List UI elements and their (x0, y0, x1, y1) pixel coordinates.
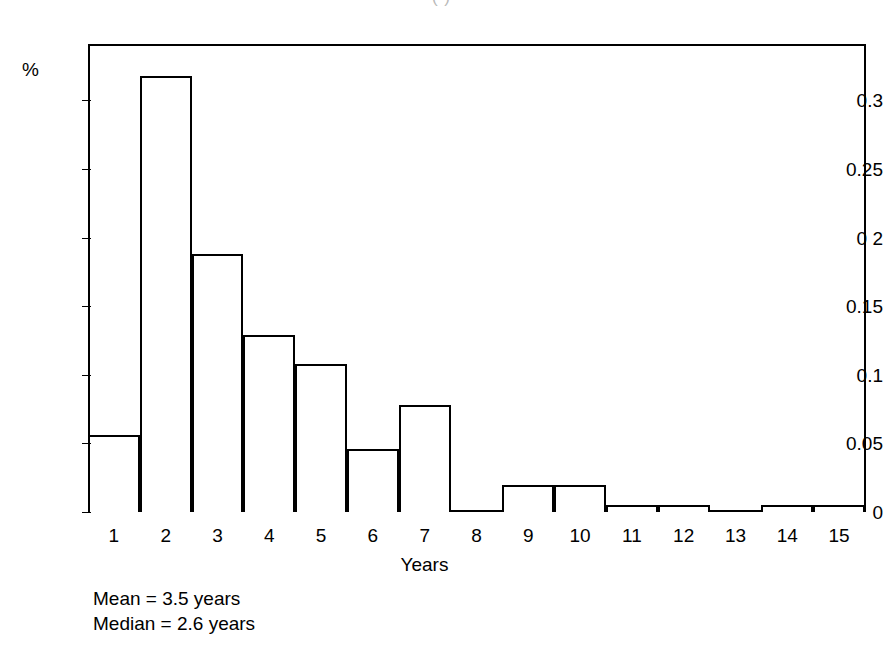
y-axis-tick (82, 306, 91, 307)
bar (658, 505, 710, 512)
bar (347, 449, 399, 512)
plot-bars-container (88, 44, 866, 512)
bar (502, 485, 554, 512)
y-axis-tick (82, 238, 91, 239)
histogram-chart: % 00.050.10.150 20.250.3 123456789101112… (0, 0, 883, 655)
y-axis-tick (82, 375, 91, 376)
bar (192, 254, 244, 512)
y-axis-tick-label: 0.25 (813, 160, 883, 179)
bar (399, 405, 451, 512)
bar (243, 335, 295, 512)
x-axis-title-label: Years (401, 554, 449, 575)
y-axis-tick (82, 443, 91, 444)
y-axis-tick-label: 0.05 (813, 434, 883, 453)
y-axis-tick-label: 0.3 (813, 91, 883, 110)
median-label: Median = 2.6 years (93, 611, 255, 636)
x-axis-tick-label: 15 (809, 526, 869, 545)
y-axis-tick-label: 0 2 (813, 229, 883, 248)
y-axis-tick-label: 0.15 (813, 297, 883, 316)
mean-label: Mean = 3.5 years (93, 586, 255, 611)
bar (88, 435, 140, 512)
y-axis-tick-label: 0.1 (813, 366, 883, 385)
bar (140, 76, 192, 512)
y-axis-tick (82, 100, 91, 101)
x-axis-title: Years (0, 555, 883, 574)
y-axis-tick (82, 512, 91, 513)
y-axis-title: % (22, 60, 39, 79)
y-axis-tick (82, 169, 91, 170)
statistics-annotation: Mean = 3.5 years Median = 2.6 years (93, 586, 255, 636)
bar (761, 505, 813, 512)
y-axis-tick-label: 0 (813, 503, 883, 522)
bar (295, 364, 347, 512)
bar (554, 485, 606, 512)
bar (606, 505, 658, 512)
